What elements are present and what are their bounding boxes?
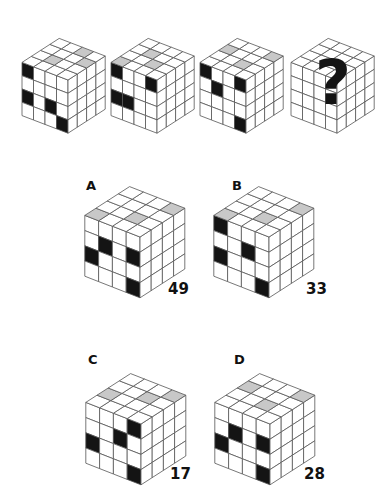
question-mark-icon: ?	[315, 46, 351, 119]
option-code[interactable]: 17	[170, 465, 191, 483]
puzzle-canvas: ?	[0, 0, 392, 486]
option-code[interactable]: 28	[304, 465, 325, 483]
sequence-cube-1	[22, 38, 105, 133]
option-code[interactable]: 49	[168, 280, 189, 298]
option-cube-b	[214, 187, 314, 298]
option-letter: C	[88, 352, 98, 367]
option-letter: B	[232, 178, 242, 193]
option-code[interactable]: 33	[306, 280, 327, 298]
option-letter: A	[86, 178, 96, 193]
sequence-cube-2	[111, 38, 194, 133]
option-letter: D	[234, 352, 245, 367]
sequence-cube-3	[200, 38, 283, 133]
option-cube-d	[215, 374, 315, 485]
